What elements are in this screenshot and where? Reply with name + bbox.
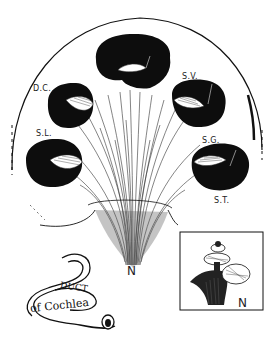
label-dc: D.C. [33, 85, 51, 93]
chamber-top [96, 34, 170, 89]
chamber-sl [26, 139, 82, 187]
label-sl: S.L. [36, 130, 52, 138]
chamber-dc [48, 83, 94, 128]
chamber-st [192, 144, 249, 191]
label-sg: S.G. [202, 137, 220, 145]
label-st: S.T. [214, 197, 229, 205]
label-nerve-inset: N [238, 297, 247, 309]
label-nerve-main: N [127, 265, 136, 277]
cochlea-diagram [0, 0, 279, 346]
chamber-sv [172, 80, 226, 128]
label-sv: S.V. [182, 73, 198, 81]
